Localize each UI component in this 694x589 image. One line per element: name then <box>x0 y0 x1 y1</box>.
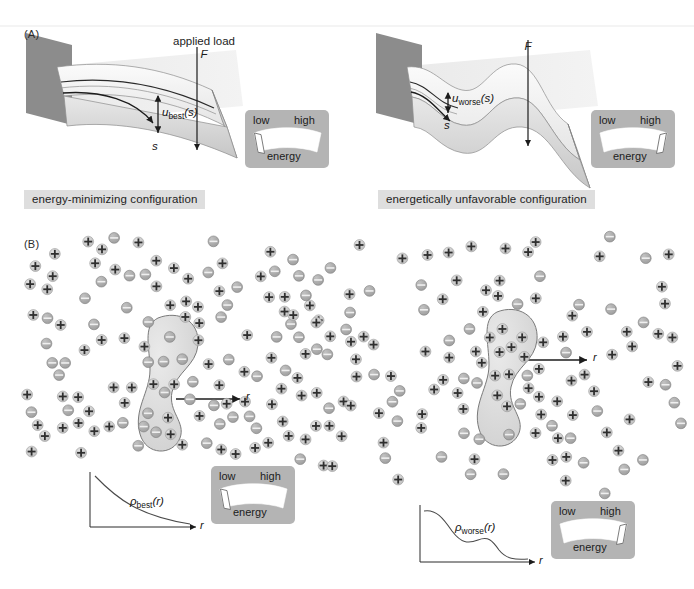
positive-ion-icon <box>76 447 87 458</box>
negative-ion-icon <box>676 418 687 429</box>
applied-load-force-symbol: F <box>508 40 548 52</box>
negative-ion-icon <box>606 304 617 315</box>
displacement-subscript: worse <box>458 97 480 107</box>
negative-ion-icon <box>565 433 576 444</box>
negative-ion-icon <box>301 290 312 301</box>
negative-ion-icon <box>143 317 154 328</box>
negative-ion-icon <box>604 231 615 242</box>
density-argument: (r) <box>484 521 496 533</box>
negative-ion-icon <box>394 386 405 397</box>
positive-ion-icon <box>336 431 347 442</box>
negative-ion-icon <box>444 335 455 346</box>
caption-energy-minimizing: energy-minimizing configuration <box>24 190 205 209</box>
positive-ion-icon <box>378 437 389 448</box>
positive-ion-icon <box>566 375 577 386</box>
figure-root: (A) (B) applied load F ubest(s) s low hi… <box>0 0 694 589</box>
positive-ion-icon <box>519 351 530 362</box>
negative-ion-icon <box>638 317 649 328</box>
positive-ion-icon <box>139 341 150 352</box>
negative-ion-icon <box>313 275 324 286</box>
positive-ion-icon <box>437 294 448 305</box>
negative-ion-icon <box>151 427 162 438</box>
positive-ion-icon <box>492 390 503 401</box>
positive-ion-icon <box>386 371 397 382</box>
negative-ion-icon <box>459 428 470 439</box>
negative-ion-icon <box>619 464 630 475</box>
positive-ion-icon <box>560 475 571 486</box>
negative-ion-icon <box>203 267 214 278</box>
positive-ion-icon <box>613 445 624 456</box>
negative-ion-icon <box>133 440 144 451</box>
positive-ion-icon <box>90 258 101 269</box>
positive-ion-icon <box>582 326 593 337</box>
positive-ion-icon <box>108 382 119 393</box>
positive-ion-icon <box>96 335 107 346</box>
positive-ion-icon <box>55 320 66 331</box>
negative-ion-icon <box>535 271 546 282</box>
negative-ion-icon <box>295 454 306 465</box>
negative-ion-icon <box>512 299 523 310</box>
positive-ion-icon <box>451 275 462 286</box>
positive-ion-icon <box>672 360 683 371</box>
negative-ion-icon <box>599 488 610 499</box>
caption-energetically-unfavorable: energetically unfavorable configuration <box>378 190 595 209</box>
positive-ion-icon <box>494 347 505 358</box>
positive-ion-icon <box>304 300 315 311</box>
positive-ion-icon <box>534 391 545 402</box>
gauge-high-label: high <box>640 114 661 126</box>
positive-ion-icon <box>345 400 356 411</box>
positive-ion-icon <box>397 253 408 264</box>
positive-ion-icon <box>110 264 121 275</box>
negative-ion-icon <box>143 357 154 368</box>
arclength-label-right: s <box>444 119 450 131</box>
positive-ion-icon <box>530 293 541 304</box>
negative-ion-icon <box>143 408 154 419</box>
positive-ion-icon <box>490 370 501 381</box>
negative-ion-icon <box>159 387 170 398</box>
negative-ion-icon <box>294 270 305 281</box>
negative-ion-icon <box>138 421 149 432</box>
positive-ion-icon <box>324 420 335 431</box>
negative-ion-icon <box>47 357 58 368</box>
negative-ion-icon <box>324 403 335 414</box>
positive-ion-icon <box>267 399 278 410</box>
density-subscript: worse <box>462 526 484 536</box>
positive-ion-icon <box>283 431 294 442</box>
negative-ion-icon <box>158 356 169 367</box>
displacement-argument: (s) <box>481 92 494 104</box>
positive-ion-icon <box>119 397 130 408</box>
gauge-unit-label: energy <box>573 541 607 553</box>
positive-ion-icon <box>667 332 678 343</box>
positive-ion-icon <box>422 250 433 261</box>
negative-ion-icon <box>341 324 352 335</box>
negative-ion-icon <box>504 429 515 440</box>
positive-ion-icon <box>177 439 188 450</box>
positive-ion-icon <box>567 310 578 321</box>
gauge-unit-label: energy <box>233 506 267 518</box>
negative-ion-icon <box>252 371 263 382</box>
positive-ion-icon <box>276 383 287 394</box>
negative-ion-icon <box>640 253 651 264</box>
positive-ion-icon <box>643 377 654 388</box>
positive-ion-icon <box>22 389 33 400</box>
gauge-high-label: high <box>260 470 281 482</box>
positive-ion-icon <box>30 261 41 272</box>
positive-ion-icon <box>148 379 159 390</box>
positive-ion-icon <box>657 281 668 292</box>
positive-ion-icon <box>470 346 481 357</box>
positive-ion-icon <box>264 292 275 303</box>
positive-ion-icon <box>621 326 632 337</box>
positive-ion-icon <box>263 437 274 448</box>
positive-ion-icon <box>368 339 379 350</box>
positive-ion-icon <box>500 243 511 254</box>
positive-ion-icon <box>311 421 322 432</box>
negative-ion-icon <box>387 396 398 407</box>
negative-ion-icon <box>214 419 225 430</box>
negative-ion-icon <box>117 417 128 428</box>
negative-ion-icon <box>222 300 233 311</box>
positive-ion-icon <box>458 404 469 415</box>
positive-ion-icon <box>663 249 674 260</box>
negative-ion-icon <box>436 452 447 463</box>
negative-ion-icon <box>280 365 291 376</box>
displacement-label-best: ubest(s) <box>162 106 198 121</box>
